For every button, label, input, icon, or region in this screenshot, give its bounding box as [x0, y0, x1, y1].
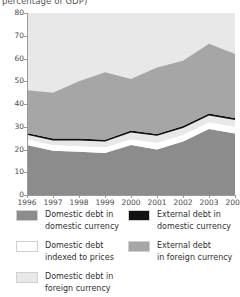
- legend-item: External debt in foreign currency: [128, 240, 232, 263]
- stacked-area-paths: [27, 13, 235, 195]
- legend-label: Domestic debt indexed to prices: [45, 240, 114, 263]
- chart-area: 80706050403020100 1996199719981999200020…: [0, 8, 240, 204]
- legend-label: External debt in foreign currency: [157, 240, 232, 263]
- y-tick-label: 50: [0, 77, 24, 85]
- legend-label: Domestic debt in domestic currency: [45, 209, 119, 232]
- y-tick-mark: [24, 150, 27, 151]
- chart-title: percentage of GDP): [2, 0, 87, 6]
- y-tick-mark: [24, 13, 27, 14]
- legend-swatch: [128, 241, 150, 252]
- legend-label: Domestic debt in foreign currency: [45, 271, 113, 294]
- legend-swatch: [16, 241, 38, 252]
- x-tick-label: 2004: [220, 199, 240, 207]
- y-tick-label: 80: [0, 9, 24, 17]
- chart-page: percentage of GDP) 80706050403020100 199…: [0, 0, 240, 297]
- y-tick-mark: [24, 36, 27, 37]
- y-tick-mark: [24, 172, 27, 173]
- legend-swatch: [16, 272, 38, 283]
- y-tick-label: 20: [0, 146, 24, 154]
- y-tick-mark: [24, 59, 27, 60]
- legend-item: Domestic debt in domestic currency: [16, 209, 119, 232]
- legend-swatch: [16, 210, 38, 221]
- y-tick-label: 70: [0, 32, 24, 40]
- y-tick-label: 10: [0, 168, 24, 176]
- y-tick-mark: [24, 127, 27, 128]
- plot-region: [27, 13, 235, 195]
- y-tick-label: 40: [0, 100, 24, 108]
- y-axis-line: [27, 13, 28, 195]
- legend-label: External debt in domestic currency: [157, 209, 231, 232]
- y-tick-label: 30: [0, 123, 24, 131]
- y-tick-label: 60: [0, 55, 24, 63]
- legend-item: External debt in domestic currency: [128, 209, 231, 232]
- legend-item: Domestic debt in foreign currency: [16, 271, 113, 294]
- legend-item: Domestic debt indexed to prices: [16, 240, 114, 263]
- y-tick-mark: [24, 81, 27, 82]
- y-tick-mark: [24, 104, 27, 105]
- chart-legend: Domestic debt in domestic currencyExtern…: [0, 207, 240, 297]
- legend-swatch: [128, 210, 150, 221]
